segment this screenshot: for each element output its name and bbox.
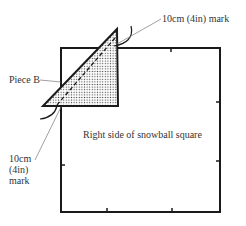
bottom-mark-leader <box>35 107 61 160</box>
bottom-mark-label-line3: mark <box>9 175 30 186</box>
snowball-square-diagram <box>0 0 246 226</box>
bottom-mark-label-line1: 10cm <box>9 153 31 164</box>
square-label: Right side of snowball square <box>83 129 202 140</box>
piece-b-leader <box>40 80 61 82</box>
piece-b-triangle <box>43 29 118 106</box>
top-mark-label: 10cm (4in) mark <box>162 13 229 24</box>
top-mark-leader <box>117 19 161 44</box>
bottom-mark-curve <box>40 106 57 119</box>
bottom-mark-label-line2: (4in) <box>9 164 28 175</box>
piece-b-label: Piece B <box>9 74 40 85</box>
